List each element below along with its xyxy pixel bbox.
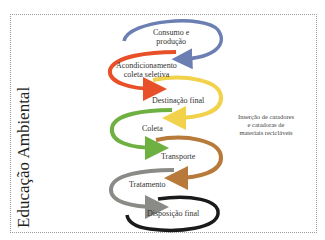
step-label-line: produção xyxy=(153,37,189,46)
step-disposicao-final: Disposição final xyxy=(147,209,199,218)
step-consumo-producao: Consumo e produção xyxy=(153,28,189,46)
step-acondicionamento: Acondicionamento coleta seletiva xyxy=(116,61,177,79)
step-destinacao-final: Destinação final xyxy=(152,96,204,105)
step-label-line: Acondicionamento xyxy=(116,61,177,70)
side-note-line: Inserção de catadores xyxy=(226,113,306,121)
step-tratamento: Tratamento xyxy=(129,180,166,189)
step-label-line: coleta seletiva xyxy=(116,70,177,79)
side-note-catadores: Inserção de catadores e catadoras de mat… xyxy=(226,113,306,137)
step-coleta: Coleta xyxy=(142,124,163,133)
step-label-line: Consumo e xyxy=(153,28,189,37)
side-note-line: e catadoras de xyxy=(226,121,306,129)
side-note-line: materiais recicláveis xyxy=(226,129,306,137)
step-transporte: Transporte xyxy=(161,152,195,161)
